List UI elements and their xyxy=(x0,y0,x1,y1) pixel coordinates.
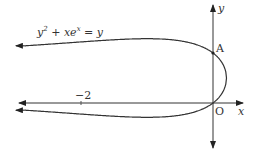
point-a-marker xyxy=(211,51,214,54)
x-axis-label: x xyxy=(238,106,244,117)
origin-label: O xyxy=(215,106,224,117)
chart: y2 + xex = y y x A O −2 xyxy=(0,0,255,154)
y-axis-label: y xyxy=(218,3,224,14)
plot-area xyxy=(0,0,255,154)
point-a-label: A xyxy=(216,43,224,54)
tick-label-minus2: −2 xyxy=(75,90,91,101)
curve xyxy=(25,39,227,118)
equation-label: y2 + xex = y xyxy=(37,26,103,38)
